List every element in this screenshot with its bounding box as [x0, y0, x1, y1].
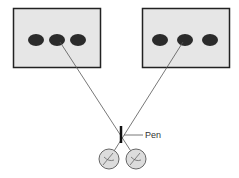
right-dot-2-fixated	[177, 34, 193, 46]
right-eye-icon	[126, 149, 146, 169]
pen-label: Pen	[145, 130, 161, 140]
diagram-canvas: Pen	[0, 0, 239, 178]
eyes	[99, 149, 146, 169]
left-eye-icon	[99, 149, 119, 169]
right-dot-3	[202, 34, 218, 46]
left-dot-3	[70, 34, 86, 46]
left-dot-1	[28, 34, 44, 46]
right-dot-1	[152, 34, 168, 46]
left-dot-2-fixated	[49, 34, 65, 46]
left-panel	[14, 9, 101, 68]
right-panel	[143, 9, 230, 68]
pen: Pen	[121, 126, 161, 143]
